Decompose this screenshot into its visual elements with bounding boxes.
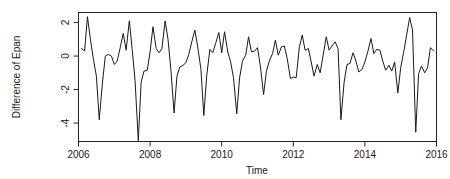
x-tick-label: 2012 (282, 149, 305, 160)
plot-frame (79, 13, 437, 142)
x-tick-label: 2008 (139, 149, 162, 160)
x-tick-label: 2016 (425, 149, 448, 160)
time-series-plot: 20-2-4 200620082010201220142016 Time Dif… (0, 0, 450, 179)
y-tick-label: -4 (60, 118, 71, 127)
x-tick-label: 2014 (354, 149, 377, 160)
y-axis-tick-labels: 20-2-4 (60, 19, 71, 127)
x-axis-tick-labels: 200620082010201220142016 (67, 149, 448, 160)
y-tick-label: -2 (60, 85, 71, 94)
y-axis-ticks (74, 23, 79, 124)
y-tick-label: 0 (60, 53, 71, 59)
chart-container: 20-2-4 200620082010201220142016 Time Dif… (0, 0, 450, 179)
y-axis-title: Difference of Epan (11, 36, 22, 119)
x-axis-title: Time (246, 165, 268, 176)
series-line-difference-of-epan (81, 17, 433, 141)
y-tick-label: 2 (60, 19, 71, 25)
x-axis-ticks (79, 142, 437, 147)
x-tick-label: 2006 (67, 149, 90, 160)
x-tick-label: 2010 (211, 149, 234, 160)
